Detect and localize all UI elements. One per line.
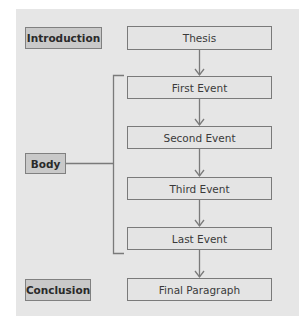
section-label-introduction: Introduction <box>25 27 102 49</box>
step-third-event: Third Event <box>127 177 272 200</box>
step-final-paragraph: Final Paragraph <box>127 278 272 301</box>
section-label-body: Body <box>25 153 66 174</box>
step-first-event: First Event <box>127 76 272 99</box>
step-thesis: Thesis <box>127 26 272 50</box>
arrow-thesis-to-first-event <box>195 50 204 75</box>
arrow-second-to-third-event <box>195 149 204 176</box>
section-label-conclusion: Conclusion <box>25 279 91 301</box>
step-last-event: Last Event <box>127 227 272 250</box>
step-second-event: Second Event <box>127 126 272 149</box>
arrow-first-to-second-event <box>195 99 204 125</box>
arrow-third-to-last-event <box>195 200 204 226</box>
body-bracket <box>114 76 125 254</box>
arrow-last-event-to-final-paragraph <box>195 250 204 277</box>
